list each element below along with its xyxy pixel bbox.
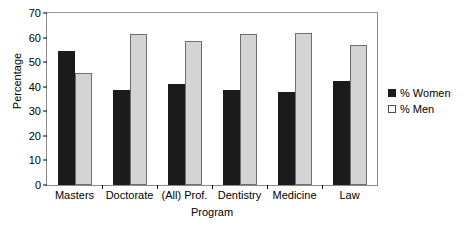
y-axis-tick-mark [43,185,47,186]
bar-group [58,13,92,185]
bar-group [223,13,257,185]
bar-group [278,13,312,185]
bar-women [333,81,350,185]
legend-label-men: % Men [400,102,434,116]
bar-men [350,45,367,185]
y-axis-tick-mark [43,111,47,112]
bar-women [113,90,130,185]
legend-swatch-men-icon [388,105,396,113]
bar-women [58,51,75,185]
y-axis-tick-mark [43,86,47,87]
y-axis-tick-mark [43,13,47,14]
plot-inner: 010203040506070 [47,13,377,185]
chart-legend: % Women % Men [388,86,451,118]
bar-women [168,84,185,185]
legend-item-men: % Men [388,102,451,116]
y-axis-tick-mark [43,160,47,161]
y-axis-tick-mark [43,62,47,63]
x-axis-tick-label: Dentistry [218,189,261,201]
bar-men [295,33,312,185]
bar-group [113,13,147,185]
x-axis-tick-label: Doctorate [106,189,154,201]
bar-men [130,34,147,185]
bar-group [333,13,367,185]
bar-women [278,92,295,185]
x-axis-tick-label: (All) Prof. [162,189,208,201]
x-axis-labels: MastersDoctorate(All) Prof.DentistryMedi… [46,189,378,205]
y-axis-tick-mark [43,37,47,38]
bar-men [240,34,257,185]
legend-swatch-women-icon [388,89,396,97]
y-axis-title: Percentage [11,31,23,131]
bar-men [185,41,202,185]
bar-chart: Percentage 010203040506070 MastersDoctor… [0,0,476,233]
x-axis-tick-label: Medicine [272,189,316,201]
bar-group [168,13,202,185]
x-axis-title: Program [46,206,378,218]
x-axis-tick-label: Law [339,189,359,201]
bar-men [75,73,92,185]
bar-women [223,90,240,185]
legend-item-women: % Women [388,86,451,100]
legend-label-women: % Women [400,86,451,100]
plot-area: 010203040506070 [46,12,378,186]
x-axis-tick-label: Masters [55,189,94,201]
y-axis-tick-mark [43,135,47,136]
